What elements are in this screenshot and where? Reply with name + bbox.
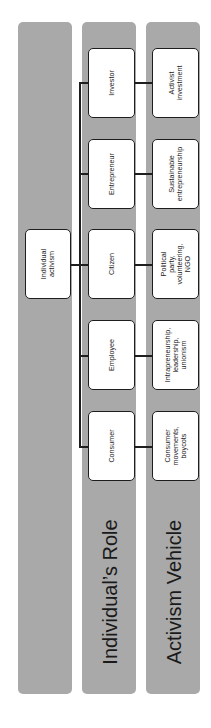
root-node-label: Individual activism (40, 249, 56, 279)
role-node-label: Investor (108, 70, 116, 96)
connector-employee (79, 355, 88, 357)
role-node-label: Employee (108, 339, 116, 371)
vehicle-node-intrapreneurship: Intrapreneurship, leadership, unionism (152, 320, 199, 390)
connector-employee-vehicle (135, 355, 152, 357)
connector-investor (79, 82, 88, 84)
connector-consumer (79, 446, 88, 448)
connector-investor-vehicle (135, 82, 152, 84)
band-label-activism-vehicle: Activism Vehicle (163, 520, 186, 665)
role-node-citizen: Citizen (88, 229, 135, 299)
vehicle-node-label: Consumer movements, boycots (164, 426, 188, 465)
band-root (18, 22, 72, 694)
connector-entrepreneur (79, 173, 88, 175)
connector-consumer-vehicle (135, 446, 152, 448)
role-node-label: Entrepreneur (108, 153, 116, 195)
role-node-consumer: Consumer (88, 411, 135, 481)
role-node-label: Citizen (108, 253, 116, 275)
connector-entrepreneur-vehicle (135, 173, 152, 175)
vehicle-node-label: Intrapreneurship, leadership, unionism (164, 328, 188, 382)
vehicle-node-label: Activist investment (168, 66, 184, 101)
role-node-entrepreneur: Entrepreneur (88, 139, 135, 209)
role-node-employee: Employee (88, 320, 135, 390)
root-node-individual-activism: Individual activism (25, 229, 71, 299)
vehicle-node-label: Political party, volunteering, NGO (160, 243, 192, 284)
connector-citizen-vehicle (135, 264, 152, 266)
vehicle-node-consumer-movements: Consumer movements, boycots (152, 411, 199, 481)
vehicle-node-label: Sustainable entrepreneurship (168, 147, 184, 201)
role-node-label: Consumer (108, 429, 116, 462)
vehicle-node-sustainable-entrepreneurship: Sustainable entrepreneurship (152, 139, 199, 209)
role-node-investor: Investor (88, 48, 135, 118)
connector-citizen (79, 264, 88, 266)
vehicle-node-political-party: Political party, volunteering, NGO (152, 229, 199, 299)
vehicle-node-activist-investment: Activist investment (152, 48, 199, 118)
band-label-individual-role: Individual’s Role (99, 519, 122, 664)
